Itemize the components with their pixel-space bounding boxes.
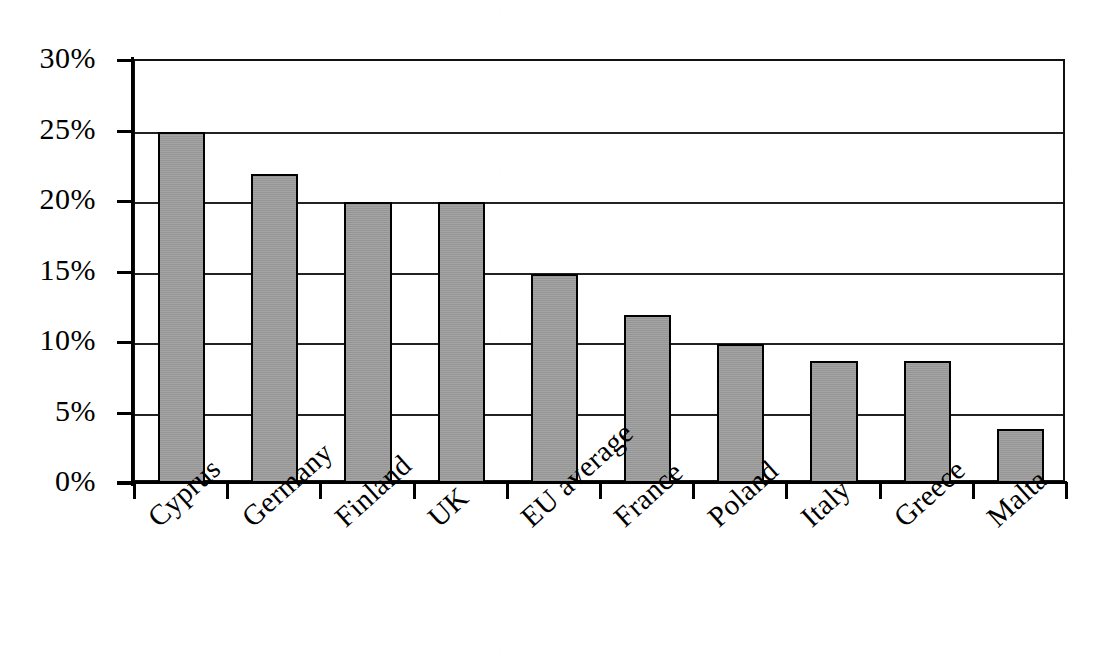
y-axis-tick: [117, 200, 133, 203]
x-axis-tick: [692, 482, 695, 499]
x-axis-tick: [319, 482, 322, 499]
y-axis-tick: [117, 130, 133, 133]
y-axis-tick-label: 30%: [16, 43, 96, 73]
x-axis-tick: [413, 482, 416, 499]
y-axis-tick-label: 20%: [16, 184, 96, 214]
plot-area: [133, 59, 1065, 482]
bar: [810, 361, 857, 484]
bar: [158, 132, 205, 485]
x-axis-tick: [785, 482, 788, 499]
bar: [344, 202, 391, 484]
x-axis-tick: [599, 482, 602, 499]
bar-texture: [253, 176, 296, 482]
gridline: [135, 132, 1063, 134]
bar: [251, 174, 298, 484]
x-axis-tick: [1065, 482, 1068, 499]
y-axis-tick-label: 10%: [16, 325, 96, 355]
bar-texture: [626, 317, 669, 482]
x-axis-tick-label: UK: [422, 482, 474, 533]
bar-texture: [346, 204, 389, 482]
y-axis-tick-label: 25%: [16, 114, 96, 144]
bar-chart: 0%5%10%15%20%25%30% CyprusGermanyFinland…: [0, 0, 1108, 668]
x-axis-tick: [879, 482, 882, 499]
bar: [438, 202, 485, 484]
x-axis-tick: [506, 482, 509, 499]
bar-texture: [812, 363, 855, 482]
y-axis-tick: [117, 59, 133, 62]
bar-texture: [160, 134, 203, 483]
bar-texture: [440, 204, 483, 482]
y-axis-tick-label: 5%: [16, 396, 96, 426]
y-axis-tick-label: 0%: [16, 466, 96, 496]
bar-texture: [533, 276, 576, 482]
y-axis-tick: [117, 412, 133, 415]
x-axis-tick: [133, 482, 136, 499]
bar: [531, 274, 578, 484]
y-axis-tick-label: 15%: [16, 255, 96, 285]
y-axis-tick: [117, 341, 133, 344]
x-axis-tick: [226, 482, 229, 499]
x-axis-tick: [972, 482, 975, 499]
y-axis-tick: [117, 271, 133, 274]
